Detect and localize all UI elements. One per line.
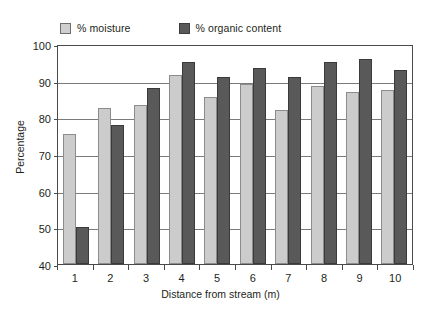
- y-tick-label: 80: [39, 113, 51, 125]
- x-tick-mark: [164, 265, 165, 270]
- x-tick-mark: [128, 265, 129, 270]
- y-axis-title: Percentage: [12, 0, 28, 313]
- y-tick-label: 50: [39, 223, 51, 235]
- x-tick-mark: [413, 265, 414, 270]
- y-tick-label: 60: [39, 187, 51, 199]
- bar-moisture: [98, 108, 111, 264]
- bar-group: [377, 46, 412, 264]
- x-axis-title-text: Distance from stream (m): [161, 288, 279, 300]
- x-axis-title: Distance from stream (m): [0, 288, 425, 300]
- bar-moisture: [311, 86, 324, 264]
- bar-moisture: [134, 105, 147, 265]
- bar-organic: [182, 62, 195, 264]
- legend-item-organic: % organic content: [179, 22, 282, 34]
- bar-organic: [288, 77, 301, 264]
- y-tick-label: 40: [39, 260, 51, 272]
- legend-item-moisture: % moisture: [60, 22, 131, 34]
- bar-organic: [217, 77, 230, 264]
- x-tick-mark: [271, 265, 272, 270]
- x-axis-ticks: [57, 265, 413, 271]
- bar-organic: [253, 68, 266, 264]
- x-tick-label: 5: [199, 272, 235, 288]
- legend-swatch-organic-icon: [179, 23, 190, 34]
- bar-group: [164, 46, 199, 264]
- x-tick-mark: [93, 265, 94, 270]
- bar-group: [235, 46, 270, 264]
- x-tick-label: 4: [164, 272, 200, 288]
- legend-label-organic: % organic content: [196, 22, 282, 34]
- plot-area: 405060708090100: [57, 45, 413, 265]
- x-tick-mark: [377, 265, 378, 270]
- bar-group: [200, 46, 235, 264]
- bar-moisture: [346, 92, 359, 264]
- x-tick-label: 6: [235, 272, 271, 288]
- bar-group: [129, 46, 164, 264]
- bar-organic: [147, 88, 160, 264]
- chart-legend: % moisture % organic content: [60, 20, 281, 36]
- bar-series-container: [58, 46, 412, 264]
- bar-group: [341, 46, 376, 264]
- x-tick-label: 2: [93, 272, 129, 288]
- bar-group: [270, 46, 305, 264]
- x-tick-label: 7: [271, 272, 307, 288]
- x-tick-label: 1: [57, 272, 93, 288]
- bar-group: [306, 46, 341, 264]
- bar-moisture: [204, 97, 217, 264]
- x-tick-label: 10: [377, 272, 413, 288]
- bar-organic: [394, 70, 407, 264]
- bar-organic: [359, 59, 372, 264]
- bar-moisture: [63, 134, 76, 264]
- bar-organic: [111, 125, 124, 264]
- bar-moisture: [381, 90, 394, 264]
- x-tick-mark: [342, 265, 343, 270]
- x-axis-tick-labels: 12345678910: [57, 272, 413, 288]
- legend-label-moisture: % moisture: [77, 22, 131, 34]
- y-tick-label: 70: [39, 150, 51, 162]
- y-tick-label: 90: [39, 77, 51, 89]
- bar-organic: [76, 227, 89, 264]
- y-tick-label: 100: [33, 40, 51, 52]
- x-tick-label: 3: [128, 272, 164, 288]
- x-tick-mark: [235, 265, 236, 270]
- bar-moisture: [169, 75, 182, 264]
- y-axis-title-text: Percentage: [14, 120, 26, 174]
- bar-chart: % moisture % organic content Percentage …: [0, 0, 425, 313]
- bar-group: [93, 46, 128, 264]
- x-tick-mark: [199, 265, 200, 270]
- legend-swatch-moisture-icon: [60, 23, 71, 34]
- x-tick-mark: [306, 265, 307, 270]
- bar-moisture: [275, 110, 288, 264]
- bar-organic: [324, 62, 337, 264]
- bar-group: [58, 46, 93, 264]
- x-tick-label: 8: [306, 272, 342, 288]
- x-tick-label: 9: [342, 272, 378, 288]
- x-tick-mark: [57, 265, 58, 270]
- bar-moisture: [240, 84, 253, 264]
